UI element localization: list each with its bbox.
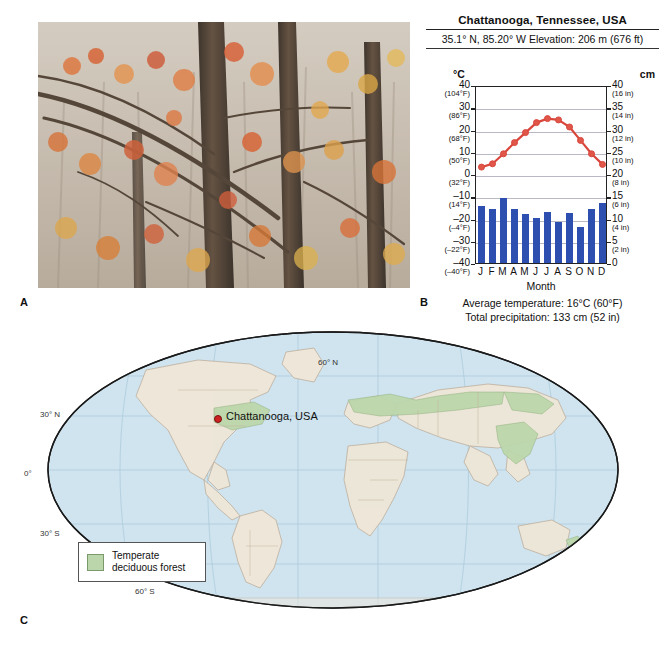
precipitation-tick: 10(4 in) bbox=[607, 214, 665, 232]
precipitation-tick-mark bbox=[607, 108, 611, 109]
month-label: J bbox=[541, 266, 552, 277]
temperature-tick: 40(104°F) bbox=[420, 80, 475, 98]
plot-frame bbox=[475, 86, 607, 264]
precipitation-tick-mark bbox=[607, 153, 611, 154]
precipitation-tick-secondary: (6 in) bbox=[612, 201, 665, 209]
latitude-label: 60° N bbox=[318, 358, 338, 367]
temperature-tick: 20(68°F) bbox=[420, 125, 475, 143]
climograph-title: Chattanooga, Tennessee, USA bbox=[420, 14, 665, 26]
month-label: M bbox=[497, 266, 508, 277]
precipitation-tick: 5(2 in) bbox=[607, 236, 665, 254]
precipitation-tick: 40(16 in) bbox=[607, 80, 665, 98]
temperature-tick-value: –20 bbox=[420, 214, 470, 224]
precipitation-tick-secondary: (8 in) bbox=[612, 179, 665, 187]
temperature-data-point bbox=[545, 116, 551, 122]
temperature-tick-secondary: (50°F) bbox=[420, 157, 470, 165]
precipitation-tick: 20(8 in) bbox=[607, 169, 665, 187]
precipitation-tick-value: 0 bbox=[612, 258, 665, 268]
temperature-data-point bbox=[534, 120, 540, 126]
temperature-tick: –40(–40°F) bbox=[420, 258, 475, 276]
latitude-label: 60° S bbox=[135, 587, 155, 596]
temperature-data-point bbox=[490, 161, 496, 167]
temperature-tick: 10(50°F) bbox=[420, 147, 475, 165]
month-label: D bbox=[596, 266, 607, 277]
month-label: J bbox=[530, 266, 541, 277]
temperature-polyline bbox=[482, 119, 603, 168]
temperature-data-point bbox=[479, 164, 485, 170]
map-legend: Temperate deciduous forest bbox=[78, 542, 206, 582]
precipitation-tick-mark bbox=[607, 264, 611, 265]
precipitation-tick-mark bbox=[607, 197, 611, 198]
legend-line-2: deciduous forest bbox=[112, 562, 185, 574]
precipitation-tick: 25(10 in) bbox=[607, 147, 665, 165]
temperature-data-point bbox=[512, 140, 518, 146]
panel-letter-b: B bbox=[420, 296, 428, 308]
temperature-tick: –10(14°F) bbox=[420, 191, 475, 209]
temperature-tick: 30(86°F) bbox=[420, 102, 475, 120]
world-map-panel: Chattanooga, USA Temperate deciduous for… bbox=[18, 330, 648, 640]
temperature-data-point bbox=[589, 151, 595, 157]
panel-letter-c: C bbox=[20, 614, 28, 626]
precipitation-tick: 35(14 in) bbox=[607, 102, 665, 120]
month-label: A bbox=[508, 266, 519, 277]
month-label: N bbox=[585, 266, 596, 277]
temperature-data-point bbox=[578, 137, 584, 143]
coords-rule bbox=[426, 48, 659, 49]
temperature-tick-secondary: (–40°F) bbox=[420, 268, 470, 276]
precipitation-tick-mark bbox=[607, 131, 611, 132]
forest-photo-panel bbox=[38, 22, 410, 288]
precipitation-tick: 30(12 in) bbox=[607, 125, 665, 143]
climograph-plot-area bbox=[475, 86, 607, 264]
temperature-data-point bbox=[600, 161, 606, 167]
legend-line-1: Temperate bbox=[112, 550, 185, 562]
temperature-tick-secondary: (32°F) bbox=[420, 179, 470, 187]
temperature-tick-value: 20 bbox=[420, 125, 470, 135]
precipitation-tick-mark bbox=[607, 175, 611, 176]
right-axis-unit: cm bbox=[640, 68, 655, 80]
panel-letter-a: A bbox=[20, 296, 28, 308]
temperature-tick-secondary: (–22°F) bbox=[420, 246, 470, 254]
precipitation-tick: 15(6 in) bbox=[607, 191, 665, 209]
precipitation-tick-secondary: (2 in) bbox=[612, 246, 665, 254]
precipitation-tick-secondary: (10 in) bbox=[612, 157, 665, 165]
x-axis-label: Month bbox=[475, 280, 607, 292]
temperature-tick: –30(–22°F) bbox=[420, 236, 475, 254]
precipitation-tick: 0 bbox=[607, 258, 665, 268]
precipitation-tick-mark bbox=[607, 242, 611, 243]
temperature-data-point bbox=[523, 130, 529, 136]
month-label: O bbox=[574, 266, 585, 277]
precipitation-tick-mark bbox=[607, 220, 611, 221]
climograph-summary: Average temperature: 16°C (60°F) Total p… bbox=[420, 296, 665, 324]
legend-text: Temperate deciduous forest bbox=[112, 550, 185, 574]
climograph-coordinates: 35.1° N, 85.20° W Elevation: 206 m (676 … bbox=[420, 33, 665, 45]
month-label: S bbox=[563, 266, 574, 277]
latitude-label: 30° N bbox=[40, 410, 60, 419]
average-temperature-text: Average temperature: 16°C (60°F) bbox=[420, 296, 665, 310]
autumn-forest-photo bbox=[38, 22, 410, 288]
precipitation-tick-value: 10 bbox=[612, 214, 665, 224]
temperature-data-point bbox=[556, 117, 562, 123]
temperature-tick-secondary: (86°F) bbox=[420, 112, 470, 120]
title-rule bbox=[426, 29, 659, 30]
photo-vector-art bbox=[38, 22, 410, 288]
precipitation-tick-secondary: (4 in) bbox=[612, 224, 665, 232]
temperature-tick: –20(–4°F) bbox=[420, 214, 475, 232]
temperature-tick-secondary: (68°F) bbox=[420, 135, 470, 143]
precipitation-axis: 40(16 in)35(14 in)30(12 in)25(10 in)20(8… bbox=[607, 86, 665, 264]
latitude-label: 0° bbox=[24, 469, 32, 478]
city-marker-label: Chattanooga, USA bbox=[226, 410, 318, 422]
temperature-tick: 0(32°F) bbox=[420, 169, 475, 187]
temperature-axis: 40(104°F)30(86°F)20(68°F)10(50°F)0(32°F)… bbox=[420, 86, 475, 264]
legend-swatch-temperate-deciduous-forest bbox=[87, 554, 104, 571]
temperature-data-point bbox=[501, 151, 507, 157]
temperature-tick-secondary: (14°F) bbox=[420, 201, 470, 209]
temperature-line bbox=[476, 87, 607, 264]
precipitation-tick-secondary: (14 in) bbox=[612, 112, 665, 120]
temperature-tick-secondary: (104°F) bbox=[420, 90, 470, 98]
precipitation-tick-value: 30 bbox=[612, 125, 665, 135]
temperature-tick-secondary: (–4°F) bbox=[420, 224, 470, 232]
latitude-label: 30° S bbox=[40, 529, 60, 538]
total-precipitation-text: Total precipitation: 133 cm (52 in) bbox=[420, 310, 665, 324]
month-label: J bbox=[475, 266, 486, 277]
precipitation-tick-secondary: (12 in) bbox=[612, 135, 665, 143]
